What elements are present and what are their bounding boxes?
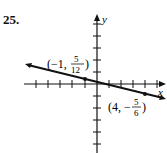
svg-text:(−1,: (−1, <box>47 57 67 71</box>
point-4 <box>143 92 147 96</box>
point-label-2: (4, − 5 6 ) <box>108 97 146 118</box>
svg-text:): ) <box>142 100 146 114</box>
svg-text:5: 5 <box>74 54 79 64</box>
svg-text:): ) <box>85 57 89 71</box>
y-axis-label: y <box>101 13 107 25</box>
x-axis-label: x <box>157 86 163 98</box>
point-neg1 <box>83 77 87 81</box>
svg-text:5: 5 <box>134 97 139 107</box>
coordinate-plane: y x (−1, 5 12 ) (4, − 5 6 ) <box>0 0 167 153</box>
svg-text:12: 12 <box>71 65 80 75</box>
svg-text:(4, −: (4, − <box>108 100 131 114</box>
svg-text:6: 6 <box>134 108 139 118</box>
